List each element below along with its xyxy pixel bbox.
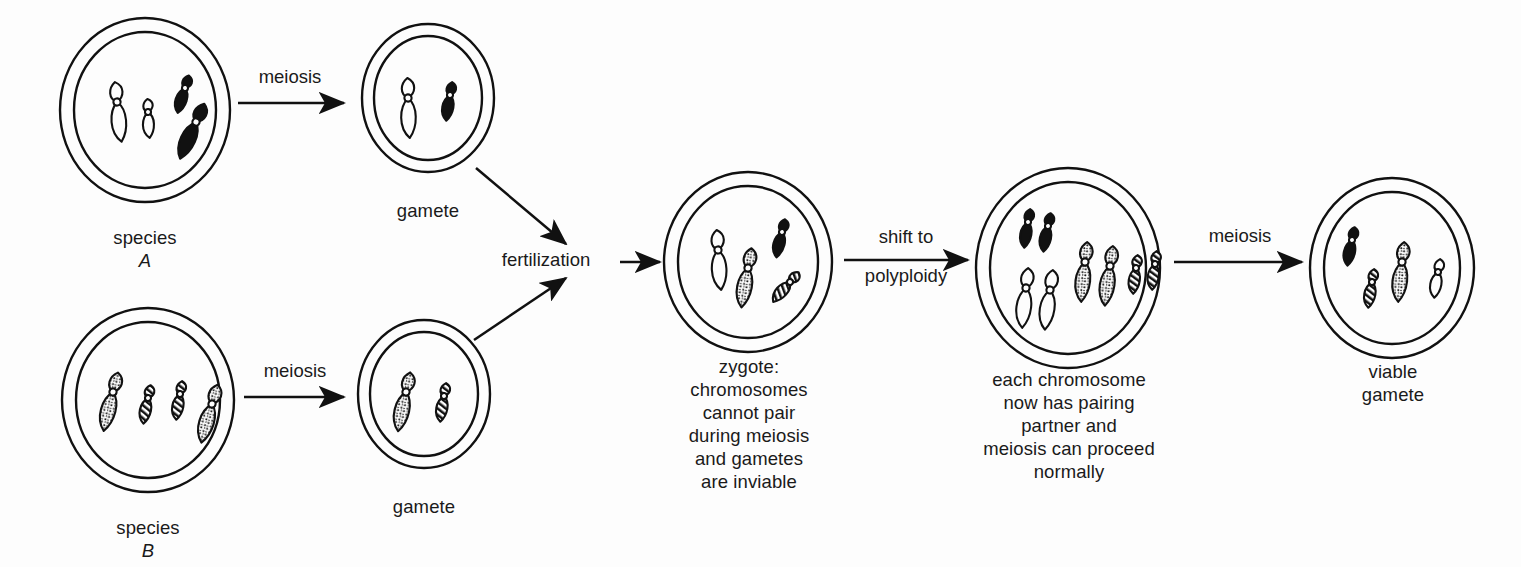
centromere (1025, 219, 1032, 226)
chromosome-black (1038, 212, 1055, 252)
chromosome-black (1342, 226, 1359, 266)
chromosome-white (1038, 269, 1059, 330)
chromosome-white (708, 229, 729, 290)
chromosome-black (771, 218, 789, 258)
arrow-label-meiosis-final: meiosis (1182, 225, 1298, 247)
chromosome-hatched (769, 268, 802, 306)
centromere (1398, 258, 1406, 266)
centromere (1152, 261, 1158, 267)
label-gamete-b: gamete (354, 472, 494, 518)
chromosome-white (106, 81, 129, 143)
cell-gamete-a (362, 24, 494, 172)
chromosome-set-gamete-a (398, 78, 456, 139)
chromosome-white (1429, 258, 1445, 298)
chromosome-hatched (435, 382, 451, 422)
centromere (1046, 286, 1054, 294)
chromosome-set-species-b (97, 371, 224, 445)
cell-viable-gamete (1310, 178, 1474, 358)
centromere (714, 246, 722, 254)
label-species-a: species A (75, 203, 215, 295)
arrow-fertilization-bottom (474, 278, 566, 340)
chromosome-hatched (1363, 268, 1379, 308)
centromere (109, 388, 118, 397)
chromosome-stippled (1098, 245, 1119, 306)
chromosome-black (1019, 208, 1035, 248)
chromosome-stippled (1391, 241, 1410, 302)
centromere (1081, 258, 1089, 266)
chromosome-black (172, 74, 193, 115)
chromosome-white (140, 99, 156, 139)
centromere (441, 393, 448, 400)
centromere (447, 92, 454, 99)
label-species-b: species B (78, 493, 218, 567)
chromosome-stippled (391, 371, 416, 433)
centromere (145, 395, 152, 402)
arrow-label-meiosis-bottom: meiosis (238, 360, 352, 382)
centromere (145, 109, 152, 116)
chromosome-white (398, 78, 417, 139)
chromosome-set-polyploid (1015, 208, 1161, 330)
chromosome-stippled (97, 371, 124, 433)
centromere (181, 84, 188, 91)
chromosome-set-viable-gamete (1342, 226, 1445, 308)
label-gamete-a: gamete (358, 176, 498, 222)
centromere (1349, 237, 1356, 244)
centromere (1369, 279, 1376, 286)
chromosome-set-gamete-b (391, 371, 451, 433)
centromere (402, 388, 410, 396)
centromere (404, 94, 412, 102)
chromosome-set-zygote (708, 218, 803, 308)
chromosome-white (1015, 267, 1034, 328)
chromosome-hatched (1128, 255, 1143, 295)
chromosome-stippled (734, 247, 757, 309)
cell-gamete-b (358, 320, 490, 468)
chromosome-black (441, 81, 457, 121)
arrow-label-fertilization: fertilization (472, 249, 620, 271)
chromosome-hatched (171, 380, 187, 420)
centromere (1106, 262, 1114, 270)
label-zygote: zygote: chromosomes cannot pair during m… (618, 355, 880, 493)
label-viable-gamete: viable gamete (1322, 360, 1464, 406)
centromere (1133, 265, 1139, 271)
centromere (744, 264, 752, 272)
arrow-label-meiosis-top: meiosis (233, 66, 347, 88)
centromere (779, 229, 786, 236)
chromosome-set-species-a (106, 74, 210, 162)
centromere (208, 400, 217, 409)
arrow-label-polyploidy: polyploidy (840, 265, 972, 287)
centromere (1435, 269, 1442, 276)
centromere (113, 98, 121, 106)
centromere (191, 117, 200, 126)
chromosome-stippled (1074, 241, 1093, 302)
arrow-label-shift-to: shift to (844, 226, 968, 248)
centromere (1045, 223, 1052, 230)
centromere (177, 391, 184, 398)
chromosome-hatched (138, 384, 155, 424)
centromere (1022, 284, 1030, 292)
label-polyploid: each chromosome now has pairing partner … (932, 368, 1206, 483)
